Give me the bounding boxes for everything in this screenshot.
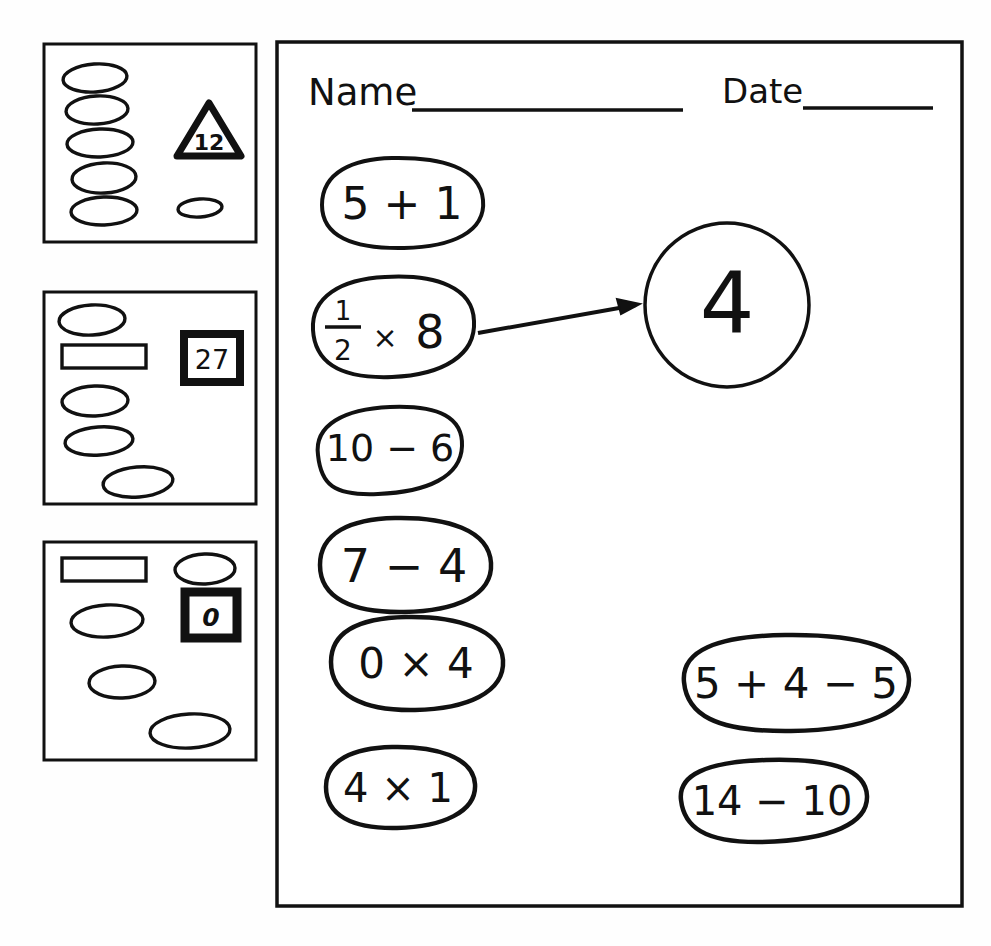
fraction-operator: ×: [372, 320, 397, 355]
badge-square-27[interactable]: 27: [184, 334, 240, 382]
badge-square-0[interactable]: 0: [185, 592, 237, 638]
fraction-numerator: 1: [335, 296, 352, 326]
answer-value: 4: [700, 253, 755, 353]
expression-text: 14 − 10: [692, 778, 853, 824]
panel-3[interactable]: 0: [44, 542, 256, 760]
fraction-denominator: 2: [334, 334, 352, 367]
page-canvas: 12 27: [0, 0, 991, 946]
expression-text: 5 + 1: [342, 178, 463, 229]
name-label: Name: [308, 71, 417, 114]
fraction-operand: 8: [415, 305, 444, 359]
panel-1[interactable]: 12: [44, 44, 256, 242]
expression-text: 10 − 6: [326, 426, 455, 470]
badge-label: 27: [195, 344, 229, 375]
date-label: Date: [722, 71, 803, 111]
expression-text: 4 × 1: [343, 765, 453, 811]
expression-text: 5 + 4 − 5: [694, 659, 898, 708]
panel-2-frame: [44, 292, 256, 504]
expression-text: 7 − 4: [341, 539, 467, 593]
worksheet-page: 12 27: [0, 0, 991, 946]
badge-label: 12: [194, 130, 225, 155]
panel-2[interactable]: 27: [44, 292, 256, 504]
badge-label: 0: [202, 603, 219, 632]
expression-text: 0 × 4: [358, 639, 473, 688]
